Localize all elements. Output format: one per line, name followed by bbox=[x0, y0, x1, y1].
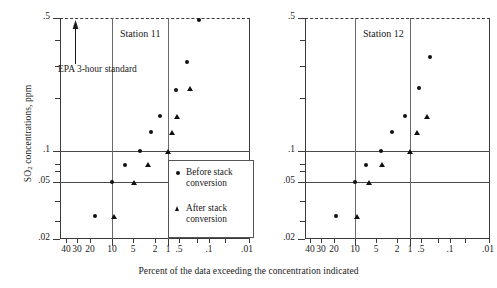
reference-line-10pct-right bbox=[355, 18, 356, 239]
legend-entry-after: After stack conversion bbox=[175, 203, 249, 225]
x-tick-label-0.1-left: .1 bbox=[196, 244, 222, 254]
legend-label-after: After stack conversion bbox=[175, 203, 249, 225]
x-tick-0.1-left bbox=[209, 239, 210, 243]
y-tick-0.1-left bbox=[53, 151, 60, 152]
reference-line-1pct-right bbox=[410, 18, 411, 239]
y-tick-0.02-right bbox=[298, 239, 305, 240]
y-tick-minor-r2 bbox=[300, 66, 305, 67]
y-tick-0.5-right bbox=[298, 18, 305, 19]
y-tick-minor-r4 bbox=[300, 164, 305, 165]
reference-line-0.05-right bbox=[305, 182, 490, 183]
data-point-after bbox=[165, 149, 171, 154]
data-point-after bbox=[379, 162, 385, 167]
reference-line-10pct-left bbox=[112, 18, 113, 239]
x-tick-0.5-right bbox=[421, 239, 422, 243]
y-tick-minor-r3 bbox=[300, 98, 305, 99]
figure-root: SO2 concentrations, ppm Percent of the d… bbox=[0, 0, 497, 288]
y-tick-0.02-left bbox=[53, 239, 60, 240]
reference-line-0.1-left bbox=[60, 151, 250, 152]
x-axis-title: Percent of the data exceeding the concen… bbox=[0, 266, 497, 276]
data-point-after bbox=[187, 86, 193, 91]
y-tick-0.5-left bbox=[53, 18, 60, 19]
y-tick-0.1-right bbox=[298, 151, 305, 152]
x-tick-label-0.5-left: .5 bbox=[166, 244, 192, 254]
x-tick-5-right bbox=[376, 239, 377, 243]
x-tick-0.01-left bbox=[249, 239, 250, 243]
x-tick-30-left bbox=[77, 239, 78, 243]
epa-standard-dashed-line-right bbox=[305, 18, 490, 19]
y-tick-minor-r1 bbox=[300, 40, 305, 41]
x-tick-2-left bbox=[155, 239, 156, 243]
data-point-after bbox=[174, 114, 180, 119]
y-tick-label-0.02-right: .02 bbox=[265, 232, 295, 242]
y-tick-minor-l4 bbox=[55, 164, 60, 165]
y-tick-label-0.1: .1 bbox=[20, 144, 50, 154]
data-point-after bbox=[414, 130, 420, 135]
x-tick-minor-lx2 bbox=[225, 239, 226, 243]
y-tick-0.05-left bbox=[53, 182, 60, 183]
y-tick-label-0.5: .5 bbox=[20, 11, 50, 21]
y-tick-label-0.02: .02 bbox=[20, 232, 50, 242]
x-tick-label-0.1-right: .1 bbox=[437, 244, 463, 254]
x-tick-0.1-right bbox=[450, 239, 451, 243]
legend-entry-before: Before stack conversion bbox=[175, 167, 249, 189]
station-label-right: Station 12 bbox=[363, 28, 404, 39]
x-tick-minor-lx1 bbox=[197, 239, 198, 243]
x-tick-0.5-left bbox=[179, 239, 180, 243]
data-point-after bbox=[366, 180, 372, 185]
data-point-after bbox=[145, 162, 151, 167]
data-point-after bbox=[111, 214, 117, 219]
y-tick-label-0.05: .05 bbox=[20, 175, 50, 185]
data-point-after bbox=[424, 114, 430, 119]
y-tick-minor-l3 bbox=[55, 98, 60, 99]
data-point-after bbox=[407, 149, 413, 154]
y-tick-minor-r7 bbox=[300, 221, 305, 222]
x-tick-label-0.01-right: .01 bbox=[475, 244, 497, 254]
epa-standard-note: EPA 3-hour standard bbox=[58, 64, 137, 74]
epa-standard-arrow bbox=[70, 20, 81, 64]
legend-triangle-marker-icon bbox=[175, 206, 179, 211]
y-tick-minor-l7 bbox=[55, 221, 60, 222]
y-tick-minor-l5 bbox=[55, 171, 60, 172]
x-tick-2-right bbox=[397, 239, 398, 243]
panel-frame-right bbox=[305, 18, 490, 239]
panel-station-12: Station 12 .5 .1 .05 .02 40 30 20 10 bbox=[305, 18, 490, 239]
reference-line-0.1-right bbox=[305, 151, 490, 152]
x-tick-40-right bbox=[310, 239, 311, 243]
y-tick-label-0.1-right: .1 bbox=[265, 144, 295, 154]
x-tick-30-right bbox=[321, 239, 322, 243]
x-tick-minor-rx2 bbox=[465, 239, 466, 243]
legend-circle-marker-icon bbox=[176, 171, 180, 175]
y-axis-title: SO2 concentrations, ppm bbox=[23, 54, 34, 214]
data-point-after bbox=[354, 214, 360, 219]
x-tick-label-0.5-right: .5 bbox=[408, 244, 434, 254]
x-tick-label-0.01-left: .01 bbox=[234, 244, 260, 254]
y-axis-title-subscript: 2 bbox=[26, 166, 34, 170]
y-tick-label-0.05-right: .05 bbox=[265, 175, 295, 185]
x-tick-20-left bbox=[90, 239, 91, 243]
x-tick-5-left bbox=[133, 239, 134, 243]
x-tick-40-left bbox=[66, 239, 67, 243]
data-point-after bbox=[131, 180, 137, 185]
y-tick-0.05-right bbox=[298, 182, 305, 183]
y-tick-label-0.5-right: .5 bbox=[265, 11, 295, 21]
y-axis-title-suffix: concentrations, ppm bbox=[23, 85, 33, 166]
legend: Before stack conversion After stack conv… bbox=[168, 160, 254, 238]
y-tick-minor-r5 bbox=[300, 171, 305, 172]
epa-standard-dashed-line-left bbox=[60, 18, 250, 19]
x-tick-20-right bbox=[334, 239, 335, 243]
station-label-left: Station 11 bbox=[120, 28, 160, 39]
y-tick-minor-l2 bbox=[55, 66, 60, 67]
y-tick-minor-r6 bbox=[300, 201, 305, 202]
legend-label-before: Before stack conversion bbox=[175, 167, 249, 189]
x-tick-minor-rx1 bbox=[438, 239, 439, 243]
panel-station-11: Station 11 EPA 3-hour standard .5 .1 .05… bbox=[60, 18, 250, 239]
data-point-after bbox=[169, 130, 175, 135]
x-tick-0.01-right bbox=[489, 239, 490, 243]
y-tick-minor-l1 bbox=[55, 40, 60, 41]
y-tick-minor-l6 bbox=[55, 201, 60, 202]
